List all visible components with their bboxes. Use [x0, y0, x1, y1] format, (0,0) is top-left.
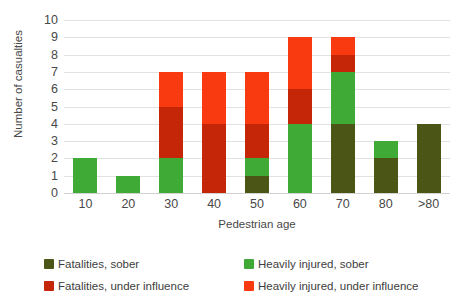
- bar-stack[interactable]: [331, 37, 355, 193]
- bar-stack[interactable]: [245, 72, 269, 193]
- y-axis-tick-label: 7: [51, 65, 58, 78]
- bar-segment[interactable]: [245, 176, 269, 193]
- y-axis-tick-label: 3: [51, 135, 58, 148]
- bar-group[interactable]: [159, 20, 183, 193]
- y-axis-tick-label: 8: [51, 48, 58, 61]
- bar-stack[interactable]: [374, 141, 398, 193]
- legend-item[interactable]: Fatalities, under influence: [44, 280, 244, 293]
- x-axis-tick-label: 80: [379, 196, 393, 212]
- legend-label: Fatalities, under influence: [58, 280, 189, 293]
- bar-segment[interactable]: [116, 176, 140, 193]
- bar-stack[interactable]: [288, 37, 312, 193]
- legend-label: Heavily injured, under influence: [258, 280, 418, 293]
- bar-segment[interactable]: [245, 72, 269, 124]
- y-axis-tick-label: 9: [51, 31, 58, 44]
- bar-segment[interactable]: [374, 141, 398, 158]
- bar-group[interactable]: [331, 20, 355, 193]
- bar-segment[interactable]: [159, 107, 183, 159]
- bar-group[interactable]: [116, 20, 140, 193]
- bar-segment[interactable]: [159, 158, 183, 193]
- bar-segment[interactable]: [159, 72, 183, 107]
- bar-group[interactable]: [73, 20, 97, 193]
- legend-label: Heavily injured, sober: [258, 258, 369, 271]
- bar-segment[interactable]: [288, 37, 312, 89]
- bar-segment[interactable]: [331, 55, 355, 72]
- x-axis-title: Pedestrian age: [64, 218, 450, 230]
- bar-stack[interactable]: [417, 124, 441, 193]
- legend-item[interactable]: Heavily injured, sober: [244, 258, 444, 271]
- bar-group[interactable]: [245, 20, 269, 193]
- bar-segment[interactable]: [202, 124, 226, 193]
- x-axis-tick-label: 70: [336, 196, 350, 212]
- y-axis-title: Number of casualties: [12, 4, 24, 164]
- bar-group[interactable]: [288, 20, 312, 193]
- legend-swatch: [44, 281, 54, 291]
- x-axis-tick-label: 30: [164, 196, 178, 212]
- y-axis-tick-label: 10: [44, 14, 58, 27]
- legend-swatch: [244, 281, 254, 291]
- x-axis-tick-label: 50: [250, 196, 264, 212]
- bar-group[interactable]: [374, 20, 398, 193]
- gridline: [64, 193, 450, 194]
- legend-item[interactable]: Heavily injured, under influence: [244, 280, 444, 293]
- bar-segment[interactable]: [202, 72, 226, 124]
- x-axis-tick-label: 20: [121, 196, 135, 212]
- bar-stack[interactable]: [73, 158, 97, 193]
- plot-area: [64, 20, 450, 193]
- chart-legend: Fatalities, soberHeavily injured, soberF…: [44, 253, 444, 297]
- y-axis-tick-label: 2: [51, 152, 58, 165]
- bar-segment[interactable]: [288, 89, 312, 124]
- bar-stack[interactable]: [116, 176, 140, 193]
- x-axis-tick-label: 40: [207, 196, 221, 212]
- y-axis-tick-label: 4: [51, 117, 58, 130]
- legend-label: Fatalities, sober: [58, 258, 139, 271]
- x-axis-tick-labels: 1020304050607080>80: [64, 196, 450, 216]
- bar-segment[interactable]: [331, 37, 355, 54]
- x-axis-tick-label: 10: [78, 196, 92, 212]
- bar-group[interactable]: [202, 20, 226, 193]
- bar-segment[interactable]: [73, 158, 97, 193]
- bars-layer: [64, 20, 450, 193]
- bar-segment[interactable]: [374, 158, 398, 193]
- y-axis-tick-label: 6: [51, 83, 58, 96]
- legend-swatch: [244, 259, 254, 269]
- y-axis-tick-label: 1: [51, 169, 58, 182]
- bar-stack[interactable]: [202, 72, 226, 193]
- bar-group[interactable]: [417, 20, 441, 193]
- bar-segment[interactable]: [245, 158, 269, 175]
- bar-stack[interactable]: [159, 72, 183, 193]
- legend-item[interactable]: Fatalities, sober: [44, 258, 244, 271]
- x-axis-tick-label: 60: [293, 196, 307, 212]
- bar-segment[interactable]: [331, 72, 355, 124]
- bar-segment[interactable]: [417, 124, 441, 193]
- x-axis-tick-label: >80: [418, 196, 439, 212]
- y-axis-tick-labels: 012345678910: [30, 20, 58, 193]
- legend-swatch: [44, 259, 54, 269]
- y-axis-tick-label: 0: [51, 187, 58, 200]
- bar-segment[interactable]: [331, 124, 355, 193]
- y-axis-tick-label: 5: [51, 100, 58, 113]
- stacked-bar-chart: Number of casualties 012345678910 102030…: [0, 0, 465, 308]
- bar-segment[interactable]: [288, 124, 312, 193]
- bar-segment[interactable]: [245, 124, 269, 159]
